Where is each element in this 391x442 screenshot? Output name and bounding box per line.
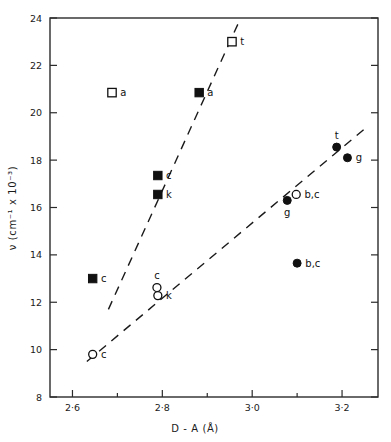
marker-filled-square xyxy=(88,274,96,282)
y-tick-label: 22 xyxy=(30,60,42,71)
plot-background xyxy=(0,0,391,442)
data-point-label: c xyxy=(166,170,172,181)
marker-filled-circle xyxy=(333,143,341,151)
data-point-label: g xyxy=(284,207,290,218)
data-point-label: t xyxy=(240,36,244,47)
marker-filled-circle xyxy=(293,259,301,267)
marker-filled-square xyxy=(154,171,162,179)
scatter-plot: 2·62·83·03·2 81012141618202224 atcckacck… xyxy=(0,0,391,442)
data-point-label: b,c xyxy=(304,189,319,200)
y-tick-label: 16 xyxy=(30,202,42,213)
marker-filled-square xyxy=(195,88,203,96)
x-tick-label: 3·2 xyxy=(335,402,350,413)
marker-filled-circle xyxy=(283,196,291,204)
y-tick-label: 20 xyxy=(30,107,42,118)
data-point-label: a xyxy=(207,87,213,98)
x-tick-label: 2·6 xyxy=(65,402,80,413)
data-point-label: c xyxy=(101,273,107,284)
data-point-label: t xyxy=(335,130,339,141)
data-point-label: k xyxy=(166,189,172,200)
x-tick-label: 3·0 xyxy=(245,402,260,413)
x-axis-label: D - A (Å) xyxy=(171,422,219,434)
data-point-label: b,c xyxy=(305,258,320,269)
x-tick-label: 2·8 xyxy=(155,402,170,413)
marker-open-circle xyxy=(153,284,161,292)
y-tick-label: 24 xyxy=(30,13,42,24)
marker-open-circle xyxy=(154,292,162,300)
marker-open-square xyxy=(228,37,236,45)
marker-open-circle xyxy=(89,350,97,358)
figure-container: 2·62·83·03·2 81012141618202224 atcckacck… xyxy=(0,0,391,442)
marker-open-circle xyxy=(292,190,300,198)
data-point-label: c xyxy=(101,349,107,360)
y-tick-label: 10 xyxy=(30,344,42,355)
y-tick-label: 8 xyxy=(36,392,42,403)
y-axis-label: ν (cm⁻¹ x 10⁻³) xyxy=(7,166,18,250)
data-point-label: a xyxy=(120,87,126,98)
data-point-label: g xyxy=(356,152,362,163)
data-point-label: c xyxy=(154,270,160,281)
y-tick-label: 18 xyxy=(30,155,42,166)
y-tick-label: 14 xyxy=(30,249,42,260)
y-tick-label: 12 xyxy=(30,297,42,308)
marker-filled-circle xyxy=(343,154,351,162)
marker-filled-square xyxy=(154,190,162,198)
marker-open-square xyxy=(108,88,116,96)
data-point-label: k xyxy=(166,290,172,301)
